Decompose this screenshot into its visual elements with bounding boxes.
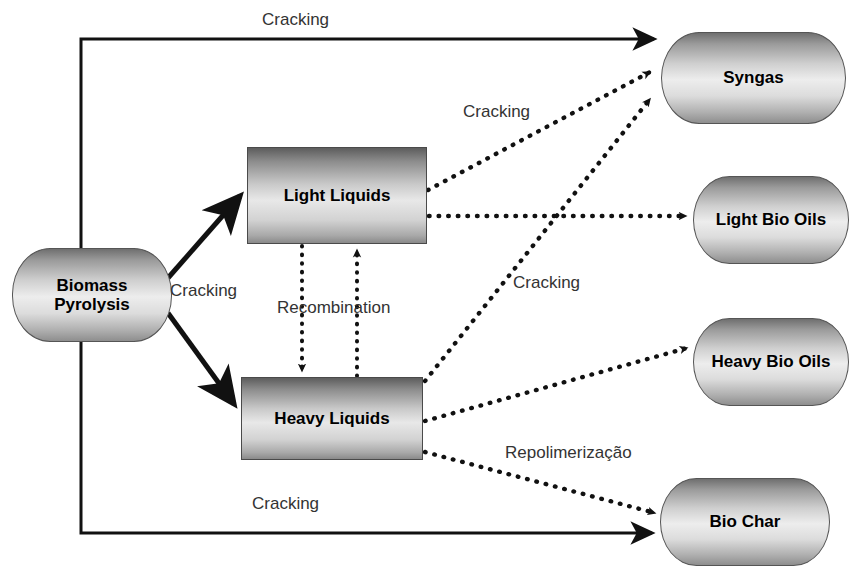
edge-label-repolimerizacao: Repolimerização xyxy=(505,443,632,463)
edge-light-liquids-to-syngas xyxy=(428,72,650,190)
edge-label-cracking-top: Cracking xyxy=(262,10,329,30)
edge-label-cracking-upper-mid: Cracking xyxy=(463,102,530,122)
edge-heavy-liquids-to-heavy-bio-oils xyxy=(425,348,687,421)
node-heavy-bio-oils[interactable]: Heavy Bio Oils xyxy=(693,318,849,406)
edge-label-cracking-bottom: Cracking xyxy=(252,494,319,514)
edge-label-recombination: Recombination xyxy=(277,298,390,318)
edge-label-cracking-split: Cracking xyxy=(170,281,237,301)
diagram-canvas: Biomass Pyrolysis Light Liquids Heavy Li… xyxy=(0,0,858,572)
node-label-light-liquids: Light Liquids xyxy=(284,186,391,205)
node-light-bio-oils[interactable]: Light Bio Oils xyxy=(693,176,849,264)
node-heavy-liquids[interactable]: Heavy Liquids xyxy=(241,377,423,460)
node-bio-char[interactable]: Bio Char xyxy=(660,478,830,566)
node-label-syngas: Syngas xyxy=(723,68,783,87)
node-biomass-pyrolysis[interactable]: Biomass Pyrolysis xyxy=(12,248,172,342)
node-light-liquids[interactable]: Light Liquids xyxy=(247,147,427,244)
node-label-bio-char: Bio Char xyxy=(710,512,781,531)
edge-biomass-to-heavy-liquids xyxy=(168,313,234,404)
edge-heavy-liquids-to-syngas xyxy=(425,99,650,381)
node-label-heavy-bio-oils: Heavy Bio Oils xyxy=(711,352,830,371)
node-label-biomass-pyrolysis: Biomass Pyrolysis xyxy=(54,276,130,314)
edge-label-cracking-lower-mid: Cracking xyxy=(513,273,580,293)
node-label-heavy-liquids: Heavy Liquids xyxy=(274,409,389,428)
node-label-light-bio-oils: Light Bio Oils xyxy=(716,210,827,229)
node-syngas[interactable]: Syngas xyxy=(661,32,846,124)
edge-biomass-to-light-liquids xyxy=(168,196,240,278)
